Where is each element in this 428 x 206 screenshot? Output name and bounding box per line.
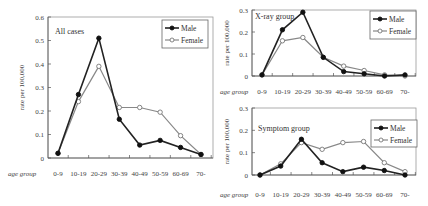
data-point-male bbox=[321, 55, 325, 59]
x-tick-label: 60-69 bbox=[376, 88, 393, 96]
y-tick-label: 0.1 bbox=[239, 51, 248, 59]
data-point-male bbox=[280, 28, 284, 32]
y-tick-label: 0 bbox=[245, 73, 249, 81]
filled-circle-icon bbox=[378, 17, 382, 21]
x-tick-label: 30-39 bbox=[314, 191, 331, 199]
x-tick-label: 70- bbox=[400, 88, 410, 96]
data-point-male bbox=[342, 69, 346, 73]
y-tick-label: 0.2 bbox=[239, 29, 248, 37]
legend-label-female: Female bbox=[181, 36, 204, 45]
chart-title: All cases bbox=[55, 27, 84, 36]
data-point-female bbox=[178, 133, 182, 137]
x-tick-label: 50-59 bbox=[152, 170, 169, 178]
y-tick-label: 0.2 bbox=[239, 127, 248, 135]
data-point-male bbox=[97, 36, 101, 40]
y-axis-label: rate per 100,000 bbox=[223, 20, 231, 66]
y-tick-label: 0.4 bbox=[35, 61, 44, 69]
data-point-male bbox=[76, 92, 80, 96]
x-tick-label: 50-59 bbox=[356, 88, 373, 96]
y-tick-label: 0.3 bbox=[35, 84, 44, 92]
data-point-male bbox=[361, 165, 365, 169]
y-tick-label: 0.2 bbox=[35, 108, 44, 116]
series-line-female bbox=[58, 66, 201, 154]
data-point-female bbox=[158, 110, 162, 114]
legend-label-male: Male bbox=[390, 124, 406, 133]
data-point-male bbox=[320, 161, 324, 165]
y-tick-label: 0.1 bbox=[239, 149, 248, 157]
y-tick-label: 0 bbox=[245, 172, 249, 180]
chart-symptom-group: 00.10.20.30-910-1920-2930-3940-4950-5960… bbox=[220, 105, 417, 200]
y-tick-label: 0 bbox=[41, 155, 45, 163]
x-tick-label: 20-29 bbox=[91, 170, 108, 178]
data-point-male bbox=[382, 74, 386, 78]
data-point-male bbox=[199, 152, 203, 156]
data-point-male bbox=[301, 10, 305, 14]
data-point-female bbox=[97, 64, 101, 68]
chart-title: X-ray group bbox=[255, 12, 294, 21]
x-tick-label: 40-49 bbox=[336, 88, 353, 96]
chart-title: Symptom group bbox=[258, 124, 310, 133]
x-tick-label: 70- bbox=[400, 191, 410, 199]
data-point-female bbox=[361, 139, 365, 143]
legend-label-female: Female bbox=[389, 27, 412, 36]
data-point-female bbox=[117, 105, 121, 109]
x-tick-label: 20-29 bbox=[295, 88, 312, 96]
data-point-male bbox=[260, 73, 264, 77]
x-tick-label: 30-39 bbox=[111, 170, 128, 178]
filled-circle-icon bbox=[379, 126, 383, 130]
y-tick-label: 0.3 bbox=[239, 7, 248, 15]
x-tick-label: 10-19 bbox=[273, 191, 290, 199]
y-tick-label: 0.6 bbox=[35, 14, 44, 22]
series-line-female bbox=[262, 38, 405, 77]
y-tick-label: 0.1 bbox=[35, 131, 44, 139]
y-axis-label: rate per 100,000 bbox=[223, 118, 231, 164]
legend: MaleFemale bbox=[370, 11, 416, 39]
data-point-male bbox=[178, 145, 182, 149]
x-tick-label: 60-69 bbox=[376, 191, 393, 199]
data-point-male bbox=[299, 137, 303, 141]
open-circle-icon bbox=[378, 29, 382, 33]
x-axis-label: age group bbox=[220, 88, 249, 96]
legend: MaleFemale bbox=[371, 120, 417, 147]
data-point-female bbox=[382, 161, 386, 165]
data-point-male bbox=[158, 138, 162, 142]
x-tick-label: 0-9 bbox=[257, 88, 267, 96]
data-point-male bbox=[382, 168, 386, 172]
y-axis-label: rate per 100,000 bbox=[18, 64, 26, 110]
x-axis-label: age group bbox=[8, 170, 37, 178]
x-tick-label: 30-39 bbox=[315, 88, 332, 96]
x-tick-label: 40-49 bbox=[132, 170, 149, 178]
legend-label-female: Female bbox=[390, 136, 413, 145]
x-tick-label: 0-9 bbox=[53, 170, 63, 178]
x-tick-label: 40-49 bbox=[335, 191, 352, 199]
x-tick-label: 70- bbox=[196, 170, 206, 178]
filled-circle-icon bbox=[170, 26, 174, 30]
data-point-male bbox=[117, 117, 121, 121]
data-point-female bbox=[342, 64, 346, 68]
x-axis-label: age group bbox=[220, 191, 249, 199]
chart-x-ray-group: 00.10.20.30-910-1920-2930-3940-4950-5960… bbox=[220, 7, 416, 97]
x-tick-label: 60-69 bbox=[172, 170, 189, 178]
data-point-male bbox=[279, 164, 283, 168]
data-point-male bbox=[56, 151, 60, 155]
y-tick-label: 0.3 bbox=[239, 105, 248, 113]
legend: MaleFemale bbox=[162, 20, 208, 48]
data-point-male bbox=[403, 173, 407, 177]
data-point-male bbox=[403, 73, 407, 77]
data-point-female bbox=[341, 140, 345, 144]
data-point-male bbox=[258, 173, 262, 177]
x-tick-label: 50-59 bbox=[355, 191, 372, 199]
data-point-female bbox=[280, 39, 284, 43]
x-tick-label: 20-29 bbox=[293, 191, 310, 199]
legend-label-male: Male bbox=[389, 15, 405, 24]
chart-all-cases: 00.10.20.30.40.50.60-910-1920-2930-3940-… bbox=[8, 14, 213, 179]
legend-label-male: Male bbox=[181, 24, 197, 33]
data-point-male bbox=[341, 169, 345, 173]
open-circle-icon bbox=[170, 38, 174, 42]
y-tick-label: 0.5 bbox=[35, 37, 44, 45]
data-point-female bbox=[301, 35, 305, 39]
data-point-female bbox=[320, 147, 324, 151]
x-tick-label: 0-9 bbox=[255, 191, 265, 199]
x-tick-label: 10-19 bbox=[70, 170, 87, 178]
data-point-male bbox=[138, 143, 142, 147]
